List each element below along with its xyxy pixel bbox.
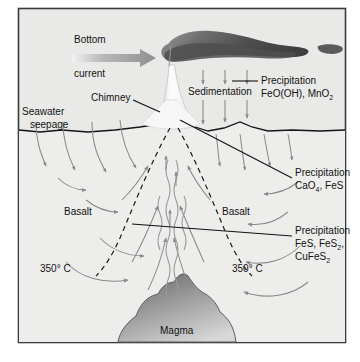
bottom-current-label-line2: current bbox=[74, 68, 105, 79]
precipitation-bottom-line2: CuFeS2 bbox=[295, 251, 330, 264]
precipitation-top-formula: FeO(OH), MnO2 bbox=[261, 88, 333, 101]
hydrothermal-vent-diagram: Bottom current Chimney Seawater seepage … bbox=[0, 0, 360, 362]
precipitation-bottom-line1: FeS, FeS2, bbox=[295, 238, 344, 251]
chimney-label: Chimney bbox=[91, 92, 130, 103]
sedimentation-label: Sedimentation bbox=[188, 86, 252, 97]
temperature-label-right: 350° C bbox=[232, 263, 263, 274]
precipitation-bottom-title: Precipitation bbox=[295, 225, 350, 236]
precipitation-middle-title: Precipitation bbox=[295, 167, 350, 178]
precipitation-top-title: Precipitation bbox=[261, 75, 316, 86]
seawater-label-line2: seepage bbox=[30, 119, 69, 130]
hydrothermal-vent-figure: Bottom current Chimney Seawater seepage … bbox=[0, 0, 360, 362]
temperature-label-left: 350° C bbox=[40, 263, 71, 274]
basalt-label-right: Basalt bbox=[222, 206, 250, 217]
bottom-current-label-line1: Bottom bbox=[74, 34, 106, 45]
seawater-label-line1: Seawater bbox=[22, 106, 65, 117]
magma-label: Magma bbox=[160, 325, 194, 336]
basalt-label-left: Basalt bbox=[64, 206, 92, 217]
precipitation-middle-formula: CaO4, FeS bbox=[295, 180, 344, 193]
